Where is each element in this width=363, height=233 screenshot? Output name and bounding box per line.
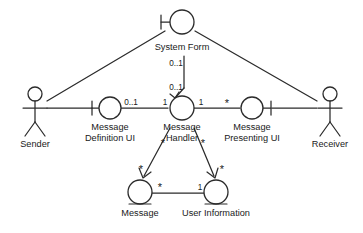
uml-diagram-canvas: Sender Receiver System Form Message Defi… bbox=[0, 0, 363, 233]
system-form-circle bbox=[170, 10, 194, 34]
line-system-form-to-receiver bbox=[195, 31, 317, 101]
receiver-label: Receiver bbox=[312, 139, 348, 149]
presenting-ui-circle bbox=[241, 97, 263, 119]
presenting-ui-label-line2: Presenting UI bbox=[224, 133, 280, 143]
message-handler-circle bbox=[170, 96, 194, 120]
multiplicity-system-form-top: 0..1 bbox=[169, 59, 183, 68]
definition-ui-circle bbox=[99, 97, 121, 119]
multiplicity-user-information-top: * bbox=[220, 163, 225, 175]
definition-ui-label-line2: Definition UI bbox=[85, 133, 135, 143]
multiplicity-handler-to-user-information: * bbox=[201, 137, 206, 149]
receiver-leg-left bbox=[320, 122, 330, 136]
entity-message[interactable]: Message bbox=[121, 180, 158, 218]
sender-leg-left bbox=[25, 122, 35, 136]
multiplicity-handler-right: 1 bbox=[199, 98, 204, 107]
user-information-circle bbox=[204, 180, 228, 204]
uml-class-diagram: Sender Receiver System Form Message Defi… bbox=[0, 0, 363, 233]
boundary-message-presenting-ui[interactable]: Message Presenting UI bbox=[224, 97, 280, 143]
message-handler-label-line1: Message bbox=[163, 122, 200, 132]
multiplicity-definition-ui-right: 0..1 bbox=[124, 98, 138, 107]
presenting-ui-label-line1: Message bbox=[233, 122, 270, 132]
sender-leg-right bbox=[35, 122, 45, 136]
message-label: Message bbox=[121, 208, 158, 218]
user-information-label: User Information bbox=[182, 208, 250, 218]
system-form-label: System Form bbox=[155, 42, 210, 52]
entity-user-information[interactable]: User Information bbox=[182, 180, 250, 218]
multiplicity-user-information-left: 1 bbox=[198, 183, 203, 192]
multiplicity-message-top: * bbox=[139, 163, 144, 175]
multiplicity-handler-to-message: * bbox=[161, 137, 166, 149]
message-circle bbox=[128, 180, 152, 204]
line-sender-to-system-form bbox=[47, 31, 165, 101]
boundary-system-form[interactable]: System Form bbox=[155, 10, 210, 52]
definition-ui-label-line1: Message bbox=[91, 122, 128, 132]
multiplicity-system-form-bottom: 0..1 bbox=[169, 83, 183, 92]
message-handler-label-line2: Handler bbox=[166, 133, 198, 143]
multiplicity-handler-left: 1 bbox=[163, 98, 168, 107]
sender-head-icon bbox=[28, 87, 42, 101]
actor-receiver[interactable]: Receiver bbox=[312, 87, 348, 149]
multiplicity-presenting-ui-left: * bbox=[225, 97, 230, 109]
actor-sender[interactable]: Sender bbox=[20, 87, 50, 149]
multiplicity-message-right: * bbox=[158, 181, 163, 193]
sender-label: Sender bbox=[20, 139, 50, 149]
receiver-head-icon bbox=[323, 87, 337, 101]
control-message-handler[interactable]: Message Handler bbox=[163, 96, 200, 143]
receiver-leg-right bbox=[330, 122, 340, 136]
